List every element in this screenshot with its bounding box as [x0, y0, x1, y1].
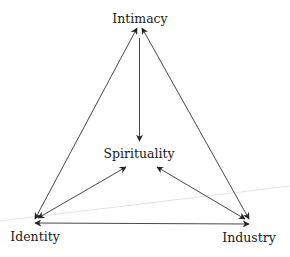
edge-identity-industry: [35, 223, 249, 224]
edge-industry-intimacy: [142, 28, 249, 219]
node-industry-label: Industry: [222, 230, 276, 245]
node-spirituality-label: Spirituality: [103, 146, 175, 161]
edge-identity-spirituality: [38, 167, 126, 218]
node-intimacy-label: Intimacy: [112, 11, 168, 26]
node-identity-label: Identity: [10, 229, 60, 244]
relationship-diagram: Intimacy Spirituality Identity Industry: [0, 0, 290, 257]
